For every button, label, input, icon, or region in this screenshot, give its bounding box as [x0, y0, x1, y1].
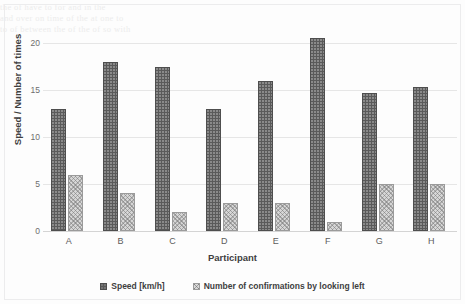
- y-tick-label-20: 20: [4, 38, 40, 48]
- y-tick-label-15: 15: [4, 85, 40, 95]
- bar-c-confirmations: [172, 212, 187, 231]
- plot-area: [43, 43, 457, 231]
- y-tick-label-5: 5: [4, 179, 40, 189]
- legend-swatch-icon-speed: [100, 283, 107, 290]
- legend-item-confirmations[interactable]: Number of confirmations by looking left: [193, 281, 365, 291]
- bar-a-speed: [51, 109, 66, 231]
- x-tick-label-a: A: [49, 236, 89, 246]
- bar-f-speed: [310, 38, 325, 231]
- bar-group-e: [250, 43, 302, 231]
- bar-group-h: [405, 43, 457, 231]
- x-axis-label: Participant: [0, 252, 465, 263]
- x-tick-label-g: G: [359, 236, 399, 246]
- legend-label-confirmations: Number of confirmations by looking left: [204, 281, 365, 291]
- bar-f-confirmations: [327, 222, 342, 231]
- chart-page: the of have to for and in the and over o…: [0, 0, 465, 304]
- bar-g-confirmations: [379, 184, 394, 231]
- legend-label-speed: Speed [km/h]: [111, 281, 164, 291]
- bar-a-confirmations: [68, 175, 83, 231]
- x-tick-label-b: B: [101, 236, 141, 246]
- bar-g-speed: [362, 93, 377, 231]
- bar-b-confirmations: [120, 193, 135, 231]
- bar-group-a: [43, 43, 95, 231]
- bar-h-confirmations: [430, 184, 445, 231]
- bar-group-g: [354, 43, 406, 231]
- bar-group-c: [147, 43, 199, 231]
- x-tick-label-c: C: [152, 236, 192, 246]
- bar-c-speed: [155, 67, 170, 232]
- bar-group-f: [302, 43, 354, 231]
- bar-e-confirmations: [275, 203, 290, 231]
- chart-legend: Speed [km/h]Number of confirmations by l…: [0, 281, 465, 291]
- x-tick-label-h: H: [411, 236, 451, 246]
- y-tick-label-0: 0: [4, 226, 40, 236]
- bar-e-speed: [258, 81, 273, 231]
- x-tick-label-d: D: [204, 236, 244, 246]
- bar-b-speed: [103, 62, 118, 231]
- y-tick-label-10: 10: [4, 132, 40, 142]
- bar-group-b: [95, 43, 147, 231]
- x-tick-label-f: F: [308, 236, 348, 246]
- bar-h-speed: [413, 87, 428, 231]
- gridline-0: [43, 231, 457, 232]
- legend-item-speed[interactable]: Speed [km/h]: [100, 281, 164, 291]
- legend-swatch-icon-confirmations: [193, 283, 200, 290]
- bar-group-d: [198, 43, 250, 231]
- y-axis-tick-group: 05101520: [0, 43, 40, 231]
- bar-d-confirmations: [223, 203, 238, 231]
- bar-d-speed: [206, 109, 221, 231]
- x-tick-label-e: E: [256, 236, 296, 246]
